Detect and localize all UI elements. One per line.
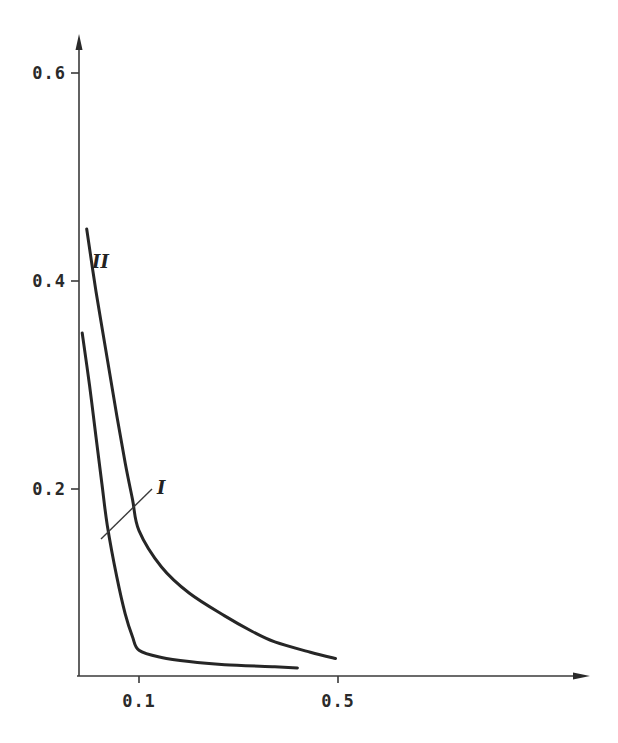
x-axis-arrowhead	[573, 673, 590, 680]
ticks: 0.20.40.60.10.5	[32, 63, 355, 711]
series-curve-ii	[87, 229, 336, 659]
y-tick-label: 0.4	[32, 271, 66, 291]
series-i-leader-line	[101, 489, 152, 539]
x-tick-label: 0.1	[122, 691, 156, 711]
series-label-i: I	[156, 477, 166, 498]
series-curve-i	[82, 333, 297, 668]
x-tick-label: 0.5	[321, 691, 355, 711]
y-axis-arrowhead	[76, 34, 83, 50]
y-tick-label: 0.6	[32, 63, 66, 83]
axes	[76, 34, 591, 680]
curves	[82, 229, 335, 668]
y-tick-label: 0.2	[32, 479, 66, 499]
series-label-ii: II	[91, 251, 109, 272]
chart: 0.20.40.60.10.5 III	[0, 0, 618, 743]
